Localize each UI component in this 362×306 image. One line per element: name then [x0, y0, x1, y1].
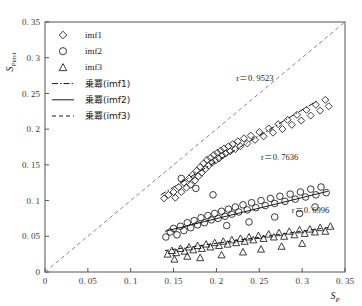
x-tick-label: 0. 1: [124, 276, 138, 286]
scatter-plot: 00. 050. 10. 150. 20. 250. 30. 3500. 050…: [0, 0, 362, 306]
data-point-imf1: [183, 184, 190, 191]
data-point-imf2: [177, 223, 184, 230]
data-point-imf1: [317, 107, 324, 114]
x-tick-label: 0. 05: [79, 276, 98, 286]
y-tick-label: 0. 3: [27, 53, 41, 63]
data-point-imf3: [184, 253, 191, 259]
data-point-imf2: [174, 232, 181, 239]
x-tick-label: 0. 35: [336, 276, 355, 286]
data-point-imf3: [306, 226, 313, 232]
data-point-imf2: [223, 222, 230, 229]
data-point-imf2: [277, 193, 284, 200]
data-point-imf1: [298, 117, 305, 124]
data-point-imf3: [327, 223, 334, 229]
data-point-imf2: [181, 227, 188, 234]
data-point-imf2: [235, 209, 242, 216]
data-point-imf3: [299, 240, 306, 246]
data-point-imf2: [210, 192, 217, 199]
legend-label-乗冪(imf1): 乗冪(imf1): [85, 78, 130, 89]
data-point-imf3: [258, 246, 265, 252]
legend-marker-imf3: [59, 64, 67, 71]
data-point-imf1: [288, 121, 295, 128]
data-point-imf3: [317, 224, 324, 230]
data-point-imf1: [279, 126, 286, 133]
data-point-imf2: [246, 219, 253, 226]
data-point-imf1: [325, 103, 332, 110]
x-tick-label: 0. 2: [210, 276, 224, 286]
data-point-imf3: [265, 231, 272, 237]
legend-marker-imf1: [59, 31, 67, 39]
y-tick-label: 0. 05: [22, 231, 41, 241]
data-point-imf2: [262, 202, 269, 209]
data-point-imf2: [271, 214, 278, 221]
data-point-imf1: [322, 96, 329, 103]
data-point-imf1: [294, 111, 301, 118]
y-tick-label: 0. 15: [22, 160, 41, 170]
data-point-imf3: [240, 249, 247, 255]
data-point-imf2: [191, 217, 198, 224]
data-point-imf3: [286, 228, 293, 234]
identity-reference-line: [45, 22, 345, 272]
y-tick-label: 0. 1: [27, 196, 41, 206]
data-point-imf2: [201, 219, 208, 226]
y-tick-label: 0. 35: [22, 17, 41, 27]
data-point-imf3: [278, 243, 285, 249]
data-point-imf1: [307, 112, 314, 119]
data-point-imf2: [244, 207, 251, 214]
data-point-imf2: [297, 189, 304, 196]
annotation-imf2: r＝0. 7636: [261, 152, 298, 162]
data-point-imf3: [171, 256, 178, 262]
annotation-imf1: r＝0. 9523: [236, 73, 273, 83]
data-point-imf2: [205, 212, 212, 219]
data-point-imf2: [193, 185, 200, 192]
data-point-imf1: [275, 121, 282, 128]
legend-label-imf2: imf2: [85, 46, 102, 56]
legend-label-乗冪(imf2): 乗冪(imf2): [85, 94, 130, 105]
legend-label-乗冪(imf3): 乗冪(imf3): [85, 110, 130, 121]
x-tick-label: 0. 25: [250, 276, 269, 286]
legend-marker-imf2: [59, 48, 66, 55]
legend-label-imf1: imf1: [85, 30, 102, 40]
x-axis-title: SP: [331, 290, 340, 303]
data-point-imf2: [178, 175, 185, 182]
x-tick-label: 0. 3: [295, 276, 309, 286]
y-tick-label: 0. 2: [27, 124, 41, 134]
data-point-imf2: [318, 184, 325, 191]
chart-figure: 00. 050. 10. 150. 20. 250. 30. 3500. 050…: [0, 0, 362, 306]
data-point-imf2: [287, 191, 294, 198]
y-tick-label: 0. 25: [22, 89, 41, 99]
annotation-imf3: r＝0. 6996: [292, 205, 329, 215]
data-point-imf2: [307, 186, 314, 193]
x-tick-label: 0: [43, 276, 48, 286]
data-point-imf1: [312, 101, 319, 108]
data-point-imf3: [197, 254, 204, 260]
data-point-imf1: [178, 189, 185, 196]
x-tick-label: 0. 15: [165, 276, 184, 286]
data-point-imf3: [218, 251, 225, 257]
y-axis-title: SPim/t: [4, 52, 17, 71]
legend-label-imf3: imf3: [85, 62, 102, 72]
y-tick-label: 0: [36, 267, 41, 277]
